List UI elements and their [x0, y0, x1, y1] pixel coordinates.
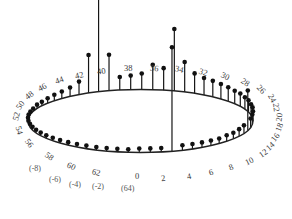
index-label-40: 40 [96, 66, 106, 76]
index-label-52: 52 [11, 111, 21, 121]
stem-marker [192, 71, 197, 76]
stem-marker [251, 109, 256, 114]
index-label-36: 36 [150, 64, 159, 73]
stem-marker [84, 143, 89, 148]
stem-marker [68, 85, 73, 90]
stem-marker [44, 133, 49, 138]
stem-marker [60, 89, 65, 94]
stem-marker [58, 138, 63, 143]
stem-marker [137, 146, 142, 151]
circular-stem-plot [0, 0, 292, 219]
index-label-38: 38 [124, 64, 133, 73]
stem-marker [161, 66, 166, 71]
stem-marker [38, 130, 43, 135]
negative-index-label--4: (-4) [69, 181, 81, 189]
stem-marker [128, 73, 133, 78]
stem-marker [115, 147, 120, 152]
stem-marker [226, 85, 231, 90]
stem-marker [231, 130, 236, 135]
stem-marker [117, 75, 122, 80]
stem-marker [238, 91, 243, 96]
stem-marker [35, 102, 40, 107]
stem-marker [66, 140, 71, 145]
stem-marker [148, 146, 153, 151]
index-label-54: 54 [14, 125, 25, 136]
negative-index-label--2: (-2) [92, 183, 104, 191]
stem-marker [237, 127, 242, 132]
index-label-34: 34 [174, 64, 184, 74]
unit-circle-ellipse [28, 90, 253, 153]
stem-marker [126, 147, 131, 152]
stem-marker [200, 140, 205, 145]
stem-marker [232, 88, 237, 93]
index-label-20: 20 [275, 113, 284, 122]
stem-marker [190, 142, 195, 147]
stem-marker [139, 71, 144, 76]
stem-marker [86, 53, 91, 58]
index-label-22: 22 [271, 102, 281, 112]
stem-marker [182, 60, 187, 65]
index-label-0: 0 [135, 172, 139, 181]
stem-marker [219, 82, 224, 87]
stem-marker [94, 145, 99, 150]
stem-marker [172, 27, 177, 32]
stem-marker [75, 142, 80, 147]
stem-marker [104, 146, 109, 151]
stem-marker [245, 88, 250, 93]
stem-marker [209, 138, 214, 143]
stem-marker [40, 100, 45, 105]
negative-index-label--6: (-6) [49, 176, 61, 184]
index-label-42: 42 [74, 70, 84, 80]
stem-marker [170, 45, 175, 50]
negative-index-label--8: (-8) [29, 165, 41, 173]
stem-marker [159, 146, 164, 151]
stem-marker [34, 127, 39, 132]
stem-marker [107, 52, 112, 57]
stem-marker [224, 133, 229, 138]
stem-marker [45, 96, 50, 101]
stem-marker [52, 92, 57, 97]
stem-marker [30, 125, 35, 130]
stem-marker [243, 95, 248, 100]
stem-marker [249, 102, 254, 107]
stem-marker [248, 116, 253, 121]
stem-marker [217, 136, 222, 141]
stem-marker [180, 143, 185, 148]
stem-marker [50, 135, 55, 140]
stem-marker [246, 98, 251, 103]
stem-marker [211, 79, 216, 84]
stem-marker [242, 123, 247, 128]
negative-index-label-64: (64) [121, 185, 134, 193]
